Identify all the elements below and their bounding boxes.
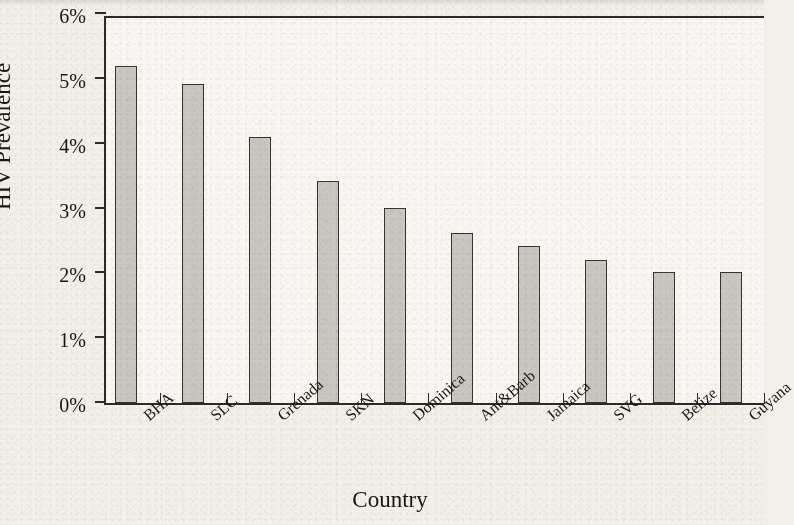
bar: [317, 181, 339, 403]
y-axis-tick: [95, 12, 106, 14]
bar: [720, 272, 742, 403]
y-axis-tick-label: 3%: [28, 199, 86, 222]
bar: [182, 84, 204, 403]
y-axis-tick-label: 0%: [28, 394, 86, 417]
y-axis-tick-label: 5%: [28, 69, 86, 92]
x-axis-title: Country: [0, 487, 764, 513]
y-axis-tick: [95, 142, 106, 144]
y-axis-tick: [95, 77, 106, 79]
plot-area: [104, 16, 764, 405]
y-axis-tick-label: 1%: [28, 329, 86, 352]
bar: [384, 208, 406, 403]
bar: [249, 137, 271, 403]
x-axis-title-text: Country: [352, 487, 427, 512]
bar: [585, 260, 607, 403]
scan-edge-artifact: [0, 0, 764, 6]
y-axis-title: HIV Prevalence: [0, 63, 16, 210]
y-axis-tick-label: 2%: [28, 264, 86, 287]
bar: [115, 66, 137, 403]
y-axis-tick: [95, 401, 106, 403]
y-axis-tick: [95, 336, 106, 338]
y-axis-tick: [95, 207, 106, 209]
bar: [653, 272, 675, 403]
y-axis-tick: [95, 271, 106, 273]
y-axis-tick-label: 4%: [28, 134, 86, 157]
y-axis-tick-label: 6%: [28, 5, 86, 28]
